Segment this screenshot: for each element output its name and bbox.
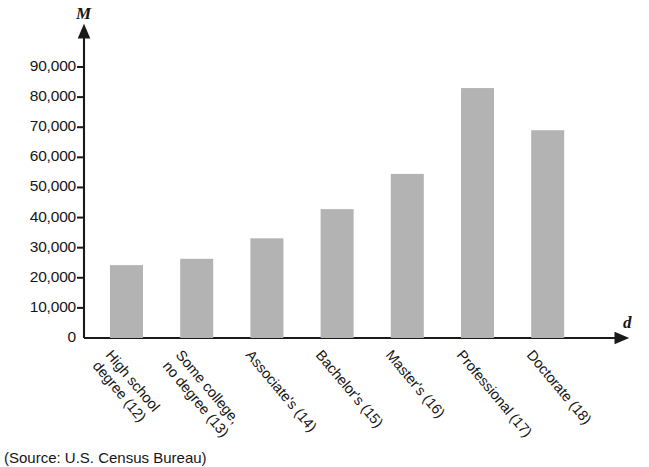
bar (110, 265, 143, 338)
bar (250, 238, 283, 338)
bar-chart: 010,00020,00030,00040,00050,00060,00070,… (0, 0, 649, 467)
bar (531, 130, 564, 338)
source-caption: (Source: U.S. Census Bureau) (4, 449, 207, 466)
bar (391, 174, 424, 338)
bar (321, 209, 354, 338)
bar (180, 259, 213, 338)
plot-area (0, 0, 649, 467)
bar (461, 88, 494, 338)
